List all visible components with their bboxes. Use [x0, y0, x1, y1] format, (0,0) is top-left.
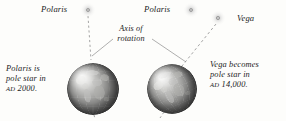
star-glow-icon-polaris-right [184, 3, 199, 18]
star-label-polaris-right: Polaris [144, 4, 170, 14]
caption-left-line-3: AD 2000. [6, 84, 64, 94]
axis-line-left [88, 16, 91, 60]
axis-line-right-lower [160, 112, 164, 118]
axis-label-line-1: Axis of [103, 24, 159, 34]
star-glow-icon-vega [211, 11, 226, 26]
earth-globe-ad-14000 [147, 64, 197, 114]
star-glow-icon-polaris-left [81, 3, 96, 18]
caption-left-era: AD [6, 85, 15, 92]
caption-right-year: 14,000. [222, 80, 248, 89]
caption-ad-14000: Vega becomes pole star in AD 14,000. [210, 60, 284, 90]
caption-right-line-3: AD 14,000. [210, 80, 284, 90]
axis-label-line-2: rotation [103, 34, 159, 44]
axis-line-left-lower [94, 115, 95, 119]
axis-of-rotation-label: Axis of rotation [103, 24, 159, 43]
caption-left-line-1: Polaris is [6, 64, 64, 74]
star-label-polaris-left: Polaris [41, 4, 67, 14]
earth-globe-ad-2000 [67, 63, 119, 115]
precession-diagram: Polaris Polaris Vega Axis of rotation Po… [0, 0, 286, 121]
caption-left-year: 2000. [18, 84, 38, 93]
star-label-vega: Vega [237, 13, 254, 23]
caption-left-line-2: pole star in [6, 74, 64, 84]
caption-right-era: AD [210, 81, 219, 88]
caption-right-line-1: Vega becomes [210, 60, 284, 70]
caption-right-line-2: pole star in [210, 70, 284, 80]
caption-ad-2000: Polaris is pole star in AD 2000. [6, 64, 64, 94]
